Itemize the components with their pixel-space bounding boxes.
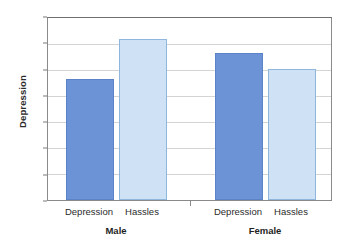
- x-label-female-depression: Depression: [214, 206, 262, 217]
- x-group-label-female: Female: [249, 225, 282, 236]
- bar-male-hassles[interactable]: [119, 39, 167, 200]
- x-label-male-depression: Depression: [65, 206, 113, 217]
- x-label-male-hassles: Hassles: [125, 206, 159, 217]
- bar-female-depression[interactable]: [215, 53, 263, 200]
- plot-area: [47, 17, 332, 201]
- x-label-female-hassles: Hassles: [274, 206, 308, 217]
- x-axis-group-separator: [190, 201, 191, 206]
- bar-chart: Depression 14 12 10 8 6 4 2 0 Depression…: [0, 0, 346, 250]
- gridline-12: [48, 44, 331, 45]
- y-axis-title: Depression: [17, 42, 28, 162]
- bar-female-hassles[interactable]: [268, 69, 316, 200]
- x-group-label-male: Male: [105, 225, 126, 236]
- bar-male-depression[interactable]: [66, 79, 114, 200]
